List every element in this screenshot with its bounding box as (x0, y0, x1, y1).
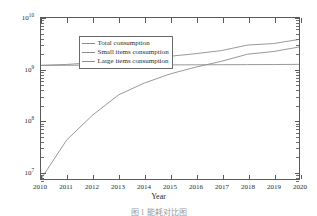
y-minor-tick (296, 29, 299, 30)
legend-swatch-total (82, 43, 95, 44)
x-major-tick (67, 18, 68, 23)
x-major-tick (41, 175, 42, 180)
y-minor-tick (296, 178, 299, 179)
y-minor-tick (296, 129, 299, 130)
figure: Energy consumption(kwh) 1071081091010 To… (0, 0, 317, 216)
y-tick-label: 107 (24, 167, 34, 177)
y-minor-tick (296, 20, 299, 21)
legend-swatch-small-items (82, 52, 95, 53)
x-major-tick (223, 175, 224, 180)
x-major-tick (119, 18, 120, 23)
y-minor-tick (41, 72, 44, 73)
y-minor-tick (41, 75, 44, 76)
y-minor-tick (296, 45, 299, 46)
y-major-tick (295, 70, 300, 71)
plot-area: Total consumption Small items consumptio… (40, 17, 300, 180)
y-minor-tick (41, 133, 44, 134)
legend-item-small-items: Small items consumption (82, 48, 169, 57)
y-minor-tick (296, 75, 299, 76)
y-minor-tick (41, 129, 44, 130)
y-minor-tick (41, 148, 44, 149)
y-minor-tick (41, 137, 44, 138)
y-minor-tick (41, 81, 44, 82)
figure-caption: 图 1 能耗对比图 (0, 206, 317, 216)
x-axis-title: Year (0, 192, 317, 201)
y-minor-tick (296, 78, 299, 79)
y-minor-tick (41, 78, 44, 79)
x-major-tick (171, 18, 172, 23)
legend-item-large-items: Large items consumption (82, 57, 169, 66)
x-major-tick (249, 175, 250, 180)
x-major-tick (67, 175, 68, 180)
x-major-tick (145, 175, 146, 180)
y-major-tick (41, 121, 46, 122)
legend-label-total: Total consumption (98, 39, 150, 48)
y-tick-label: 1010 (22, 12, 34, 22)
x-major-tick (41, 18, 42, 23)
x-major-tick (145, 18, 146, 23)
y-minor-tick (296, 85, 299, 86)
x-major-tick (197, 175, 198, 180)
x-tick-label: 2020 (285, 183, 315, 191)
y-minor-tick (296, 90, 299, 91)
y-minor-tick (41, 106, 44, 107)
y-minor-tick (296, 175, 299, 176)
x-major-tick (119, 175, 120, 180)
y-tick-label: 109 (24, 64, 34, 74)
y-tick-label: 108 (24, 115, 34, 125)
y-minor-tick (296, 126, 299, 127)
y-minor-tick (296, 124, 299, 125)
x-major-tick (197, 18, 198, 23)
y-major-tick (295, 121, 300, 122)
y-minor-tick (296, 72, 299, 73)
y-minor-tick (296, 133, 299, 134)
y-minor-tick (296, 54, 299, 55)
y-minor-tick (41, 23, 44, 24)
y-minor-tick (296, 81, 299, 82)
legend-item-total: Total consumption (82, 39, 169, 48)
y-minor-tick (41, 157, 44, 158)
x-major-tick (93, 175, 94, 180)
y-minor-tick (41, 26, 44, 27)
x-major-tick (223, 18, 224, 23)
y-minor-tick (296, 97, 299, 98)
legend: Total consumption Small items consumptio… (79, 36, 173, 69)
y-major-tick (295, 18, 300, 19)
y-minor-tick (41, 54, 44, 55)
x-major-tick (249, 18, 250, 23)
y-minor-tick (41, 34, 44, 35)
y-minor-tick (41, 29, 44, 30)
y-minor-tick (296, 23, 299, 24)
y-minor-tick (296, 106, 299, 107)
x-major-tick (275, 175, 276, 180)
y-minor-tick (41, 39, 44, 40)
y-minor-tick (41, 181, 44, 182)
x-major-tick (301, 175, 302, 180)
y-minor-tick (296, 181, 299, 182)
y-minor-tick (296, 34, 299, 35)
y-minor-tick (41, 97, 44, 98)
legend-swatch-large-items (82, 61, 95, 62)
x-major-tick (275, 18, 276, 23)
y-minor-tick (41, 126, 44, 127)
x-major-tick (93, 18, 94, 23)
y-minor-tick (296, 148, 299, 149)
x-major-tick (171, 175, 172, 180)
y-minor-tick (296, 39, 299, 40)
y-minor-tick (41, 85, 44, 86)
y-major-tick (41, 70, 46, 71)
y-minor-tick (41, 142, 44, 143)
y-minor-tick (296, 142, 299, 143)
y-minor-tick (296, 157, 299, 158)
y-minor-tick (296, 137, 299, 138)
y-major-tick (295, 173, 300, 174)
legend-label-large-items: Large items consumption (98, 57, 169, 66)
y-minor-tick (296, 26, 299, 27)
y-minor-tick (41, 90, 44, 91)
legend-label-small-items: Small items consumption (98, 48, 169, 57)
y-minor-tick (41, 124, 44, 125)
y-minor-tick (41, 45, 44, 46)
x-major-tick (301, 18, 302, 23)
